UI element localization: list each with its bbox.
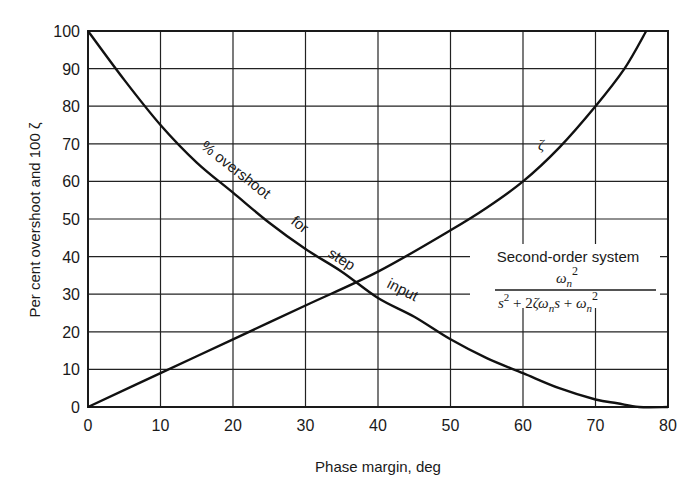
x-axis-label: Phase margin, deg: [315, 458, 441, 475]
x-tick-label: 50: [442, 417, 460, 434]
y-tick-label: 70: [62, 136, 80, 153]
x-tick-label: 20: [224, 417, 242, 434]
overshoot-label-1: % overshoot: [198, 137, 275, 202]
y-tick-label: 90: [62, 61, 80, 78]
x-tick-label: 30: [297, 417, 315, 434]
x-tick-label: 40: [369, 417, 387, 434]
overshoot-label-2: for: [288, 212, 312, 236]
y-axis-label: Per cent overshoot and 100 ζ: [26, 122, 43, 317]
y-tick-labels: 0102030405060708090100: [53, 23, 80, 416]
x-tick-label: 0: [84, 417, 93, 434]
zeta-label: ζ: [538, 137, 545, 153]
system-title: Second-order system: [497, 248, 640, 265]
overshoot-label-3: step: [325, 244, 358, 273]
y-tick-label: 60: [62, 173, 80, 190]
y-tick-label: 80: [62, 98, 80, 115]
x-tick-label: 70: [587, 417, 605, 434]
x-tick-label: 80: [659, 417, 677, 434]
x-tick-label: 60: [514, 417, 532, 434]
y-tick-label: 0: [71, 399, 80, 416]
y-tick-label: 20: [62, 324, 80, 341]
y-tick-label: 30: [62, 286, 80, 303]
y-tick-label: 40: [62, 249, 80, 266]
x-tick-label: 10: [152, 417, 170, 434]
overshoot-label-4: input: [385, 275, 422, 305]
y-tick-label: 100: [53, 23, 80, 40]
y-tick-label: 10: [62, 361, 80, 378]
x-tick-labels: 01020304050607080: [84, 417, 677, 434]
y-tick-label: 50: [62, 211, 80, 228]
grid-lines: [88, 31, 668, 407]
phase-margin-chart: 0102030405060708090100 01020304050607080…: [0, 0, 692, 484]
